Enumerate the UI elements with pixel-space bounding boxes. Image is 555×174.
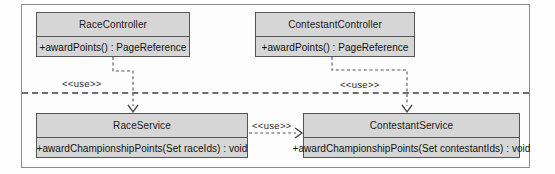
class-name-contestant-controller: ContestantController	[256, 13, 414, 37]
stereotype-label-use-race: <<use>>	[62, 78, 102, 89]
stereotype-label-use-service: <<use>>	[252, 120, 292, 131]
layer-separator-line	[22, 92, 529, 94]
uml-class-race-controller[interactable]: RaceController +awardPoints() : PageRefe…	[36, 12, 190, 57]
class-name-race-service: RaceService	[37, 114, 247, 138]
uml-class-contestant-service[interactable]: ContestantService +awardChampionshipPoin…	[303, 113, 520, 158]
class-operation-contestant-service: +awardChampionshipPoints(Set contestantI…	[304, 138, 519, 159]
class-name-race-controller: RaceController	[37, 13, 189, 37]
class-operation-contestant-controller: +awardPoints() : PageReference	[256, 37, 414, 58]
uml-class-race-service[interactable]: RaceService +awardChampionshipPoints(Set…	[36, 113, 248, 158]
class-name-contestant-service: ContestantService	[304, 114, 519, 138]
uml-class-contestant-controller[interactable]: ContestantController +awardPoints() : Pa…	[255, 12, 415, 57]
stereotype-label-use-contestant: <<use>>	[340, 79, 380, 90]
uml-class-diagram: <<use>> <<use>> <<use>> RaceController +…	[0, 0, 555, 174]
class-operation-race-controller: +awardPoints() : PageReference	[37, 37, 189, 58]
class-operation-race-service: +awardChampionshipPoints(Set raceIds) : …	[37, 138, 247, 159]
